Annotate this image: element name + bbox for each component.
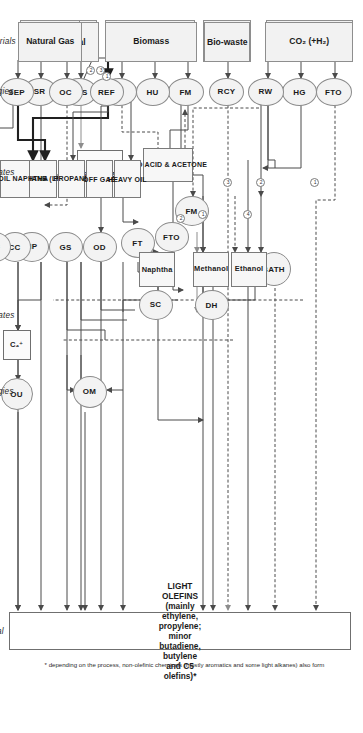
rotated-text: FM	[186, 207, 198, 216]
rawbox-co2: CO₂ (+H₂)	[265, 22, 353, 62]
marker-8: 1	[102, 72, 111, 81]
rotated-text: Biomass	[133, 37, 169, 46]
rotated-text: Technologies	[0, 387, 14, 396]
final-products-footnote: * depending on the process, non-olefinic…	[181, 524, 188, 733]
raw-box-natural-gas-v: Natural Gas	[18, 22, 82, 62]
rawbox-bio-waste: Bio-waste	[204, 22, 250, 62]
marker-3: 3	[223, 178, 232, 187]
rotated-text: Technologies	[0, 87, 14, 96]
rotated-text: FT	[133, 239, 143, 248]
tech2-fto[interactable]: FTO	[155, 222, 189, 252]
rotated-text: Bio-waste	[207, 37, 248, 46]
marker-6: 2	[176, 214, 185, 223]
tech1-oc[interactable]: OC	[49, 78, 83, 106]
rotated-text: Methanol	[194, 266, 228, 274]
rotated-text: CO₂ (+H₂)	[289, 37, 329, 46]
rotated-text: 2	[258, 180, 265, 186]
int2-c4-plus: C₄⁺	[3, 330, 31, 360]
tech-node-hu[interactable]: HU	[136, 78, 170, 106]
rotated-text: Intermediates	[0, 311, 15, 320]
rotated-text: GS	[60, 242, 72, 251]
tech-node-rcy[interactable]: RCY	[209, 78, 244, 106]
tech2-od[interactable]: OD	[83, 232, 117, 262]
rotated-text: C₄⁺	[10, 341, 23, 350]
rotated-text: 4	[245, 212, 252, 218]
int1-heavy-oil-node: HEAVY OIL	[114, 160, 141, 198]
final-products-box: LIGHT OLEFINS (mainly ethylene, propylen…	[9, 612, 351, 650]
rotated-text: 2	[178, 216, 185, 222]
rotated-text: DH	[206, 301, 218, 310]
rotated-text: * depending on the process, non-olefinic…	[45, 661, 325, 668]
figure-root: CO₂ (+H₂) Bio-waste Biomass Coal Natural…	[0, 0, 363, 733]
rotated-text: HG	[293, 87, 306, 96]
rotated-text: 1	[200, 212, 207, 218]
diagram-canvas: CO₂ (+H₂) Bio-waste Biomass Coal Natural…	[0, 0, 363, 733]
rotated-text: Intermediates	[0, 168, 15, 177]
rotated-text: REF	[99, 88, 116, 97]
rotated-text: OC	[60, 87, 73, 96]
rotated-text: Ethanol	[235, 266, 264, 274]
tech2-sc-upper[interactable]: SC	[139, 290, 173, 320]
rotated-text: Raw Materials	[0, 37, 16, 46]
rotated-text: 1	[312, 180, 319, 186]
tech-node-fm[interactable]: FM	[168, 78, 204, 106]
marker-1: 1	[310, 178, 319, 187]
rotated-text: Naphtha	[142, 266, 173, 274]
int2-naphtha: Naphtha	[139, 252, 175, 287]
rotated-text: SC	[0, 243, 1, 252]
tech2-dh[interactable]: DH	[195, 290, 229, 320]
rotated-text: FTO	[164, 232, 181, 241]
rotated-text: Natural Gas	[26, 37, 74, 46]
rotated-text: OD	[94, 242, 107, 251]
tech1-ref[interactable]: REF	[90, 78, 124, 106]
rotated-text: FTO	[326, 87, 343, 96]
marker-4: 4	[243, 210, 252, 219]
rotated-text: Final	[0, 627, 4, 636]
int1-bio-acid-acetone: BIO ACID & ACETONE	[143, 148, 193, 182]
marker-9: 2	[86, 66, 95, 75]
rotated-text: 2	[88, 68, 95, 74]
tech-node-hg[interactable]: HG	[282, 78, 317, 106]
rotated-text: 3	[225, 180, 232, 186]
tech-node-fto[interactable]: FTO	[316, 78, 352, 106]
rotated-text: SR	[34, 88, 46, 97]
marker-2: 2	[256, 178, 265, 187]
rotated-text: SC	[150, 301, 162, 310]
int1-gasoil-naphtha: GASOIL NAPHTHA	[0, 160, 30, 198]
tech2-gs[interactable]: GS	[49, 232, 83, 262]
rotated-text: FM	[180, 88, 192, 97]
rotated-text: RCY	[218, 87, 236, 96]
rotated-text: 1	[104, 74, 111, 80]
rotated-text: OM	[83, 388, 97, 397]
rotated-text: HU	[147, 88, 159, 97]
int1-propane: PROPANE	[58, 160, 85, 198]
marker-5: 1	[198, 210, 207, 219]
int2-methanol: Methanol	[193, 252, 229, 287]
rotated-text: HEAVY OIL	[108, 175, 147, 182]
tech-node-rw[interactable]: RW	[248, 78, 284, 106]
int2-ethanol: Ethanol	[231, 252, 267, 287]
tech3-om[interactable]: OM	[73, 376, 107, 408]
rotated-text: RW	[259, 87, 273, 96]
rawbox-biomass: Biomass	[105, 22, 197, 62]
